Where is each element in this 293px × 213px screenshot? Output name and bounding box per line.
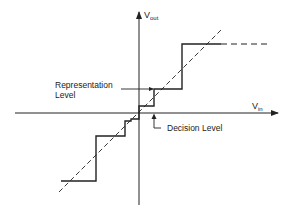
- decision-arrow-icon: [152, 114, 157, 120]
- quantizer-diagram: [0, 0, 293, 213]
- x-axis-label: Vin: [252, 101, 263, 114]
- ideal-linear-line: [59, 30, 221, 192]
- y-axis-label: Vout: [144, 10, 158, 23]
- representation-level-label: Representation Level: [55, 80, 113, 100]
- decision-level-label: Decision Level: [167, 123, 222, 133]
